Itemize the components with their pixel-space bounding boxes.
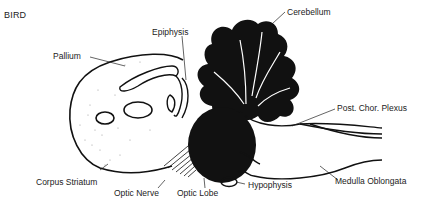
- stipple-texture: [79, 61, 150, 165]
- label-medulla-oblongata: Medulla Oblongata: [335, 177, 406, 186]
- label-epiphysis: Epiphysis: [152, 28, 188, 37]
- label-optic-lobe: Optic Lobe: [177, 189, 218, 198]
- diagram-title: BIRD: [4, 11, 26, 20]
- label-hypophysis: Hypophysis: [248, 181, 292, 190]
- epiphysis-structure: [167, 76, 188, 118]
- label-post-chor-plexus: Post. Chor. Plexus: [337, 104, 407, 113]
- cerebellum-shape: [198, 20, 300, 122]
- bird-brain-diagram: BIRD Epiphysis Cerebellum Pallium Post. …: [0, 0, 423, 203]
- label-optic-nerve: Optic Nerve: [114, 189, 159, 198]
- label-cerebellum: Cerebellum: [287, 8, 330, 17]
- brainstem: [238, 112, 382, 179]
- brain-illustration: [0, 0, 423, 203]
- label-pallium: Pallium: [53, 52, 81, 61]
- label-corpus-striatum: Corpus Striatum: [36, 178, 97, 187]
- cerebrum: [70, 54, 183, 172]
